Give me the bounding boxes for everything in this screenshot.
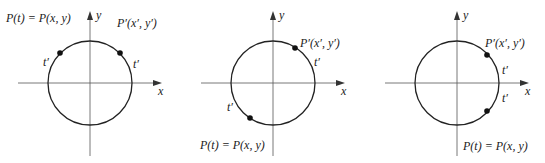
p-prime-label: P′(x′, y′) — [299, 36, 340, 50]
point-marker — [292, 45, 298, 51]
p-prime-label: P′(x′, y′) — [484, 36, 525, 50]
unit-circle-rotation-figure: xyP(t) = P(x, y)P′(x′, y′)t′t′xyP(t) = P… — [0, 0, 545, 163]
point-marker — [57, 50, 63, 56]
t-prime-label: t′ — [133, 57, 139, 71]
panel-2: xyP(t) = P(x, y)P′(x′, y′)t′t′ — [199, 8, 347, 156]
x-axis-label: x — [524, 84, 531, 98]
point-marker — [247, 115, 253, 121]
y-axis-label: y — [462, 8, 469, 22]
p-label: P(t) = P(x, y) — [199, 138, 265, 152]
y-axis-arrow-icon — [270, 11, 276, 20]
y-axis-label: y — [278, 8, 285, 22]
p-label: P(t) = P(x, y) — [462, 139, 528, 153]
panel-1: xyP(t) = P(x, y)P′(x′, y′)t′t′ — [5, 8, 164, 156]
t-prime-label: t′ — [314, 55, 320, 69]
y-axis-arrow-icon — [454, 11, 460, 20]
p-label: P(t) = P(x, y) — [5, 11, 71, 25]
t-prime-label: t′ — [502, 91, 508, 105]
t-prime-label: t′ — [502, 63, 508, 77]
p-prime-label: P′(x′, y′) — [116, 16, 157, 30]
x-axis-label: x — [340, 84, 347, 98]
panel-3: xyP(t) = P(x, y)P′(x′, y′)t′t′ — [385, 8, 531, 156]
t-prime-label: t′ — [43, 55, 49, 69]
point-marker — [117, 50, 123, 56]
y-axis-label: y — [95, 8, 102, 22]
y-axis-arrow-icon — [87, 11, 93, 20]
t-prime-label: t′ — [227, 100, 233, 114]
x-axis-label: x — [157, 84, 164, 98]
point-marker — [484, 108, 490, 114]
point-marker — [484, 52, 490, 58]
